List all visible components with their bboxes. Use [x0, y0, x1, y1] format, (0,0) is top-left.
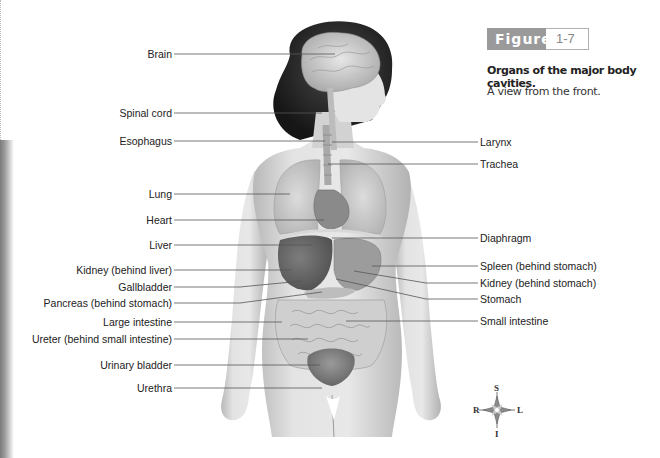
figure-badge-label: Figure [487, 28, 546, 50]
label-liver: Liver [149, 239, 172, 251]
compass-superior: S [494, 383, 499, 393]
label-stomach: Stomach [480, 293, 521, 305]
compass-left: L [517, 405, 523, 415]
label-kidney-behind-stomach: Kidney (behind stomach) [480, 277, 596, 289]
label-kidney-behind-liver: Kidney (behind liver) [76, 264, 172, 276]
label-brain: Brain [147, 48, 172, 60]
label-ureter: Ureter (behind small intestine) [32, 333, 172, 345]
label-pancreas: Pancreas (behind stomach) [44, 297, 172, 309]
label-trachea: Trachea [480, 158, 518, 170]
label-diaphragm: Diaphragm [480, 232, 531, 244]
compass-inferior: I [495, 429, 499, 439]
label-lung: Lung [149, 188, 172, 200]
figure-badge: Figure 1-7 [487, 28, 589, 50]
figure-subtitle: A view from the front. [487, 85, 601, 98]
compass-right: R [473, 405, 480, 415]
figure-number: 1-7 [546, 28, 589, 50]
label-gallbladder: Gallbladder [118, 281, 172, 293]
body-figure [221, 21, 441, 437]
compass-rose-icon [479, 392, 515, 428]
label-large-intestine: Large intestine [103, 316, 172, 328]
label-spleen: Spleen (behind stomach) [480, 260, 597, 272]
label-spinal-cord: Spinal cord [119, 107, 172, 119]
label-urethra: Urethra [137, 382, 172, 394]
label-esophagus: Esophagus [119, 135, 172, 147]
label-heart: Heart [146, 214, 172, 226]
label-larynx: Larynx [480, 136, 512, 148]
label-urinary-bladder: Urinary bladder [100, 359, 172, 371]
label-small-intestine: Small intestine [480, 315, 548, 327]
